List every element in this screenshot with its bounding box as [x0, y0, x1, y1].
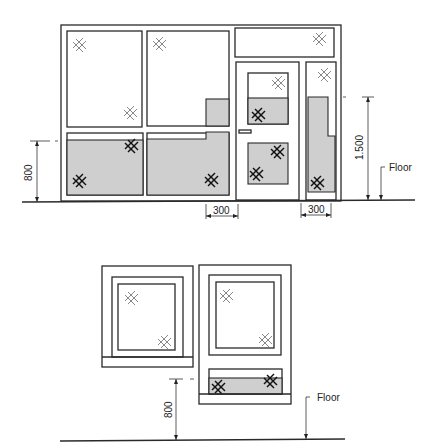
dimension-300-right: 300 — [301, 203, 331, 218]
dimension-1500: 1.500 — [343, 97, 374, 200]
tinted-section — [147, 132, 229, 195]
dimension-label: 800 — [23, 164, 34, 181]
dimension-300-left: 300 — [206, 204, 238, 219]
dimension-800-bottom: 800 — [163, 379, 194, 440]
tinted-section — [206, 99, 229, 126]
floor-label: Floor — [389, 162, 412, 173]
tinted-section — [308, 97, 335, 192]
window-left-pane — [118, 284, 175, 350]
floor-label: Floor — [317, 392, 340, 403]
tinted-section — [248, 98, 288, 124]
top-elevation: 800 1.500 Floor 300 — [22, 25, 415, 219]
drawing-canvas: 800 1.500 Floor 300 — [0, 0, 437, 447]
floor-marker-bottom: Floor — [304, 392, 340, 439]
dimension-label: 800 — [163, 401, 174, 418]
floor-marker-top: Floor — [379, 162, 412, 200]
dimension-800-top: 800 — [23, 141, 58, 202]
dimension-label: 1.500 — [354, 135, 365, 160]
dimension-label: 300 — [308, 204, 325, 215]
ground-line — [60, 439, 345, 441]
pane-upper-left — [67, 31, 142, 127]
dimension-label: 300 — [213, 205, 230, 216]
clear-glass-mark-icon — [318, 68, 331, 82]
door-handle — [239, 130, 251, 133]
bottom-elevation: 800 Floor — [60, 265, 345, 441]
